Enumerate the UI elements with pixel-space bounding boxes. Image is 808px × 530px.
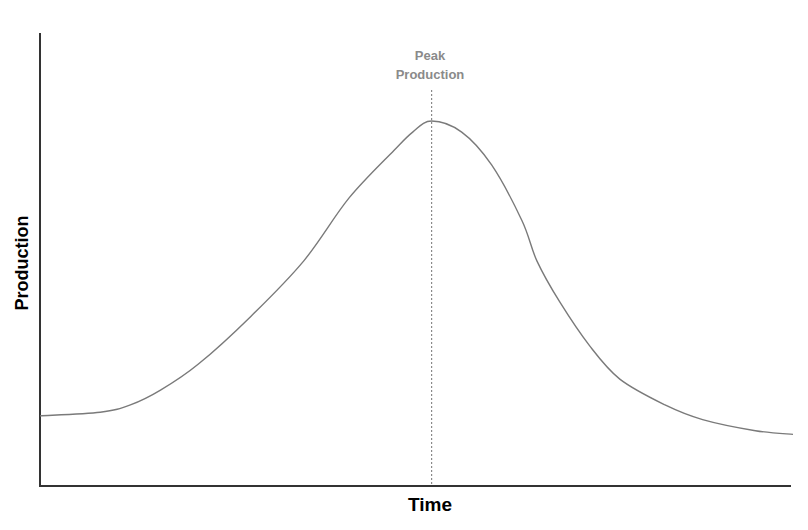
peak-label-line2: Production	[380, 65, 480, 84]
x-axis-label: Time	[380, 494, 480, 516]
y-axis-label: Production	[12, 183, 32, 343]
peak-production-label: Peak Production	[380, 46, 480, 84]
production-curve	[40, 121, 793, 434]
chart-area: Peak Production Time Production	[0, 0, 808, 530]
peak-label-line1: Peak	[380, 46, 480, 65]
